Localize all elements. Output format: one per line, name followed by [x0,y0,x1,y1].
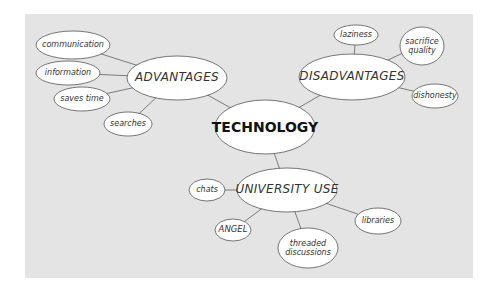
node-university-use: UNIVERSITY USE [235,183,338,197]
node-angel: ANGEL [219,225,248,235]
node-threaded-discussions-line1: threaded [285,239,331,248]
node-sacrifice-quality-line1: sacrifice [405,37,438,46]
node-threaded-discussions-line2: discussions [285,248,331,257]
node-threaded-discussions: threaded discussions [285,239,331,257]
node-technology: TECHNOLOGY [212,119,318,135]
node-dishonesty: dishonesty [413,91,456,100]
node-disadvantages: DISADVANTAGES [299,70,404,84]
node-laziness: laziness [340,30,372,39]
node-advantages: ADVANTAGES [135,71,219,85]
node-sacrifice-quality-line2: quality [405,46,438,55]
node-searches: searches [110,119,146,128]
node-libraries: libraries [362,216,394,225]
node-chats: chats [196,185,218,194]
node-sacrifice-quality: sacrifice quality [405,37,438,55]
node-communication: communication [42,40,104,49]
node-information: information [45,68,91,77]
node-saves-time: saves time [60,94,104,103]
